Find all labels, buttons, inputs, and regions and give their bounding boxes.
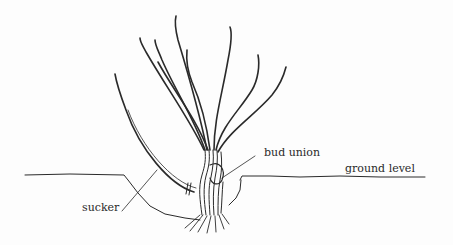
sucker-leader — [122, 170, 157, 211]
bud-union-leader — [222, 156, 255, 178]
rose-bush-illustration — [0, 0, 453, 245]
diagram-canvas: bud union ground level sucker — [0, 0, 453, 245]
root-mass — [185, 214, 229, 233]
crown-trunk — [200, 150, 224, 215]
canes — [140, 16, 286, 152]
sucker-label: sucker — [82, 201, 119, 214]
ground-level-label: ground level — [345, 162, 415, 175]
bud-union-label: bud union — [264, 146, 320, 159]
sucker-cane — [115, 74, 194, 192]
ground-line-right — [240, 176, 425, 180]
